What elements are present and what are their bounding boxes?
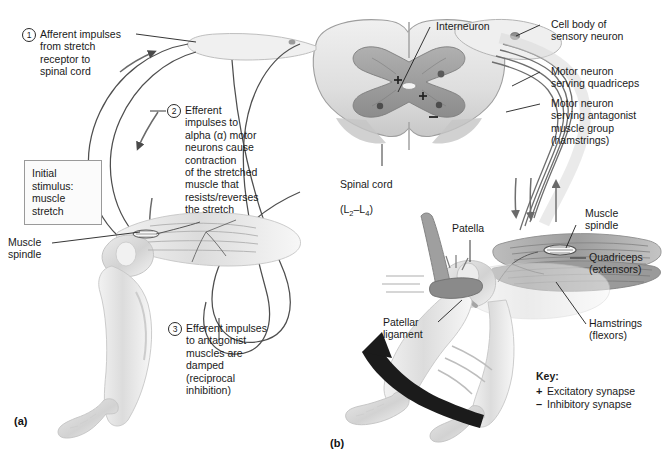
initial-stimulus-box: Initial stimulus: muscle stretch	[24, 160, 102, 225]
label-patellar-ligament: Patellar ligament	[383, 316, 423, 341]
muscle-spindle-right	[544, 245, 576, 255]
step-2-number: 2	[167, 104, 181, 118]
label-spinal-cord-text: Spinal cord	[340, 178, 393, 190]
step-3-number: 3	[168, 322, 182, 336]
key-entry-excitatory: + Excitatory synapse	[536, 385, 635, 398]
muscle-spindle-left	[133, 230, 159, 238]
label-cell-body-sensory-neuron: Cell body of sensory neuron	[551, 18, 623, 43]
key-label-excitatory: Excitatory synapse	[547, 385, 635, 398]
step-1-annotation: 1 Afferent impulses from stretch recepto…	[22, 28, 130, 78]
label-quadriceps: Quadriceps (extensors)	[589, 251, 643, 276]
label-interneuron: Interneuron	[436, 20, 490, 32]
key-title: Key:	[536, 370, 635, 383]
key-label-inhibitory: Inhibitory synapse	[547, 398, 632, 411]
key-symbol-plus: +	[536, 385, 547, 398]
label-muscle-spindle-left: Muscle spindle	[8, 236, 41, 261]
step-1-text: Afferent impulses from stretch receptor …	[40, 28, 121, 78]
panel-label-a: (a)	[14, 415, 27, 427]
label-spinal-cord-segments: (L2–L4)	[340, 203, 373, 215]
step-2-text: Efferent impulses to alpha (α) motor neu…	[185, 104, 259, 216]
flow-arrows-left	[120, 52, 158, 234]
label-spinal-cord: Spinal cord (L2–L4)	[340, 166, 393, 221]
key-legend: Key: + Excitatory synapse – Inhibitory s…	[536, 370, 635, 411]
step-2-annotation: 2 Efferent impulses to alpha (α) motor n…	[167, 104, 259, 216]
step-1-number: 1	[22, 28, 36, 42]
nerve-root-sheath-left	[188, 34, 316, 61]
patellar-reflex-figure: 1 Afferent impulses from stretch recepto…	[0, 0, 663, 460]
label-motor-neuron-antagonist: Motor neuron serving antagonist muscle g…	[551, 97, 636, 147]
step-3-text: Efferent impulses to antagonist muscles …	[186, 322, 267, 396]
label-hamstrings: Hamstrings (flexors)	[589, 317, 642, 342]
key-symbol-minus: –	[536, 398, 547, 411]
label-muscle-spindle-right: Muscle spindle	[585, 207, 618, 232]
step-3-annotation: 3 Efferent impulses to antagonist muscle…	[168, 322, 290, 396]
key-entry-inhibitory: – Inhibitory synapse	[536, 398, 635, 411]
panel-label-b: (b)	[330, 437, 344, 449]
label-patella: Patella	[452, 222, 484, 234]
label-motor-neuron-quadriceps: Motor neuron serving quadriceps	[551, 65, 639, 90]
